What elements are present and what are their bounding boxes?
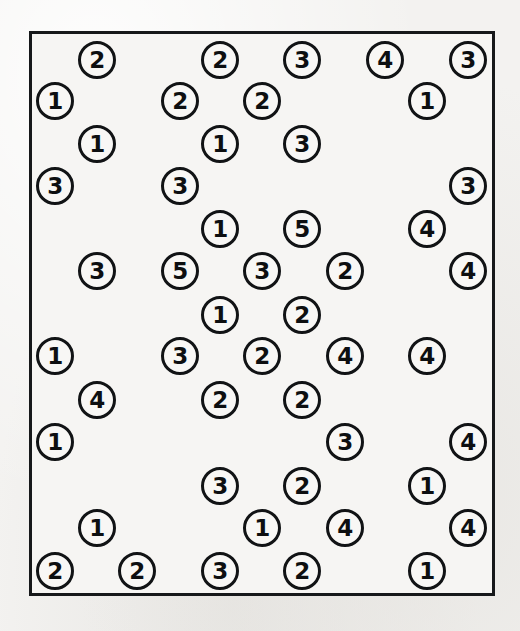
token-label: 3	[294, 132, 310, 155]
token-label: 1	[419, 474, 435, 497]
numbered-circle-token[interactable]: 1	[36, 337, 74, 375]
numbered-circle-token[interactable]: 3	[161, 167, 199, 205]
numbered-circle-token[interactable]: 1	[243, 509, 281, 547]
numbered-circle-token[interactable]: 3	[78, 252, 116, 290]
numbered-circle-token[interactable]: 4	[326, 509, 364, 547]
numbered-circle-token[interactable]: 1	[36, 82, 74, 120]
numbered-circle-token[interactable]: 1	[201, 210, 239, 248]
token-label: 4	[460, 259, 476, 282]
numbered-circle-token[interactable]: 4	[449, 509, 487, 547]
numbered-circle-token[interactable]: 3	[326, 423, 364, 461]
token-label: 2	[294, 388, 310, 411]
numbered-circle-token[interactable]: 1	[408, 552, 446, 590]
numbered-circle-token[interactable]: 1	[78, 125, 116, 163]
worksheet-canvas: 2234312211133331543532412132444221343211…	[0, 0, 520, 631]
token-label: 5	[294, 217, 310, 240]
token-label: 3	[294, 48, 310, 71]
numbered-circle-token[interactable]: 2	[243, 82, 281, 120]
token-label: 1	[254, 516, 270, 539]
token-label: 4	[419, 344, 435, 367]
numbered-circle-token[interactable]: 3	[243, 252, 281, 290]
token-label: 2	[294, 303, 310, 326]
numbered-circle-token[interactable]: 2	[283, 552, 321, 590]
token-label: 2	[294, 559, 310, 582]
numbered-circle-token[interactable]: 2	[118, 552, 156, 590]
token-label: 3	[47, 174, 63, 197]
numbered-circle-token[interactable]: 1	[78, 509, 116, 547]
numbered-circle-token[interactable]: 5	[161, 252, 199, 290]
token-label: 2	[172, 89, 188, 112]
numbered-circle-token[interactable]: 3	[283, 41, 321, 79]
numbered-circle-token[interactable]: 1	[36, 423, 74, 461]
numbered-circle-token[interactable]: 1	[408, 467, 446, 505]
numbered-circle-token[interactable]: 2	[283, 467, 321, 505]
token-label: 1	[212, 217, 228, 240]
token-label: 4	[89, 388, 105, 411]
numbered-circle-token[interactable]: 3	[161, 337, 199, 375]
token-label: 4	[460, 430, 476, 453]
token-label: 3	[212, 559, 228, 582]
numbered-circle-token[interactable]: 2	[201, 41, 239, 79]
numbered-circle-token[interactable]: 2	[161, 82, 199, 120]
numbered-circle-token[interactable]: 4	[408, 210, 446, 248]
token-label: 2	[89, 48, 105, 71]
numbered-circle-token[interactable]: 3	[201, 552, 239, 590]
token-label: 1	[419, 559, 435, 582]
token-label: 1	[47, 344, 63, 367]
numbered-circle-token[interactable]: 4	[326, 337, 364, 375]
numbered-circle-token[interactable]: 4	[449, 252, 487, 290]
token-label: 3	[212, 474, 228, 497]
token-label: 2	[254, 89, 270, 112]
numbered-circle-token[interactable]: 1	[408, 82, 446, 120]
numbered-circle-token[interactable]: 2	[283, 296, 321, 334]
token-label: 1	[419, 89, 435, 112]
token-label: 4	[460, 516, 476, 539]
numbered-circle-token[interactable]: 2	[326, 252, 364, 290]
token-label: 4	[337, 516, 353, 539]
token-label: 2	[212, 388, 228, 411]
token-label: 2	[129, 559, 145, 582]
numbered-circle-token[interactable]: 4	[366, 41, 404, 79]
token-label: 3	[460, 174, 476, 197]
numbered-circle-token[interactable]: 4	[449, 423, 487, 461]
token-label: 2	[294, 474, 310, 497]
token-label: 4	[419, 217, 435, 240]
token-label: 3	[172, 174, 188, 197]
token-label: 3	[337, 430, 353, 453]
token-label: 3	[460, 48, 476, 71]
token-label: 3	[172, 344, 188, 367]
numbered-circle-token[interactable]: 3	[449, 167, 487, 205]
token-label: 1	[89, 132, 105, 155]
numbered-circle-token[interactable]: 2	[283, 381, 321, 419]
token-label: 3	[254, 259, 270, 282]
numbered-circle-token[interactable]: 4	[78, 381, 116, 419]
numbered-circle-token[interactable]: 3	[36, 167, 74, 205]
token-label: 2	[337, 259, 353, 282]
numbered-circle-token[interactable]: 2	[78, 41, 116, 79]
token-label: 2	[47, 559, 63, 582]
numbered-circle-token[interactable]: 5	[283, 210, 321, 248]
token-label: 3	[89, 259, 105, 282]
token-label: 1	[212, 303, 228, 326]
token-label: 4	[337, 344, 353, 367]
numbered-circle-token[interactable]: 1	[201, 125, 239, 163]
token-label: 2	[254, 344, 270, 367]
token-label: 4	[377, 48, 393, 71]
token-label: 1	[89, 516, 105, 539]
numbered-circle-token[interactable]: 3	[283, 125, 321, 163]
numbered-circle-token[interactable]: 4	[408, 337, 446, 375]
token-label: 1	[212, 132, 228, 155]
token-label: 1	[47, 430, 63, 453]
numbered-circle-token[interactable]: 2	[243, 337, 281, 375]
token-label: 5	[172, 259, 188, 282]
numbered-circle-token[interactable]: 1	[201, 296, 239, 334]
numbered-circle-token[interactable]: 3	[449, 41, 487, 79]
token-label: 1	[47, 89, 63, 112]
numbered-circle-token[interactable]: 2	[201, 381, 239, 419]
numbered-circle-token[interactable]: 3	[201, 467, 239, 505]
token-label: 2	[212, 48, 228, 71]
numbered-circle-token[interactable]: 2	[36, 552, 74, 590]
